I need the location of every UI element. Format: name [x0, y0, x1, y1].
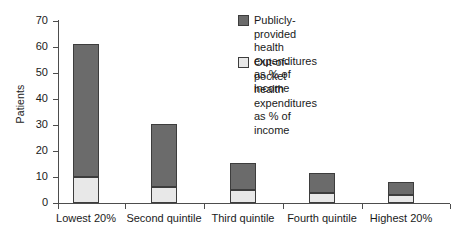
y-tick-label-70: 70 — [4, 15, 48, 26]
y-tick-20 — [53, 151, 58, 152]
x-tick-0 — [58, 204, 59, 209]
bar-segment-out-of-pocket-0 — [73, 177, 99, 203]
bar-segment-out-of-pocket-2 — [230, 190, 256, 203]
x-tick-label-4: Highest 20% — [353, 212, 449, 225]
legend-label-1: Out-of-pocket health expenditures as % o… — [254, 56, 317, 137]
y-tick-label-0: 0 — [4, 197, 48, 208]
bar-segment-out-of-pocket-4 — [388, 195, 414, 203]
x-axis-line — [58, 203, 450, 204]
y-axis-line — [58, 20, 59, 204]
y-tick-60 — [53, 47, 58, 48]
y-tick-40 — [53, 99, 58, 100]
x-tick-1 — [125, 204, 126, 209]
stacked-bar-chart: Patients 010203040506070 Lowest 20%Secon… — [0, 0, 459, 244]
bar-segment-public-0 — [73, 44, 99, 177]
y-tick-30 — [53, 125, 58, 126]
bar-segment-public-1 — [151, 124, 177, 188]
bar-segment-public-2 — [230, 163, 256, 190]
y-tick-70 — [53, 21, 58, 22]
y-tick-10 — [53, 177, 58, 178]
x-tick-4 — [362, 204, 363, 209]
legend-swatch-out-of-pocket — [238, 57, 249, 68]
y-tick-label-50: 50 — [4, 67, 48, 78]
bar-segment-public-4 — [388, 182, 414, 195]
x-tick-5 — [450, 204, 451, 209]
y-tick-label-60: 60 — [4, 41, 48, 52]
y-tick-label-40: 40 — [4, 93, 48, 104]
y-tick-label-20: 20 — [4, 145, 48, 156]
legend-item-1: Out-of-pocket health expenditures as % o… — [238, 56, 317, 137]
x-tick-2 — [204, 204, 205, 209]
x-tick-3 — [283, 204, 284, 209]
bar-segment-public-3 — [309, 173, 335, 193]
y-tick-label-10: 10 — [4, 171, 48, 182]
bar-segment-out-of-pocket-1 — [151, 187, 177, 203]
y-tick-label-30: 30 — [4, 119, 48, 130]
bar-segment-out-of-pocket-3 — [309, 193, 335, 203]
legend-swatch-public — [238, 15, 249, 26]
y-tick-50 — [53, 73, 58, 74]
